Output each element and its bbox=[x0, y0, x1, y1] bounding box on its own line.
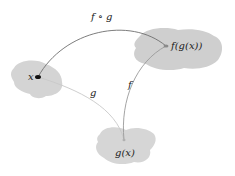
point-gx bbox=[123, 139, 126, 141]
label-gx: g(x) bbox=[115, 148, 135, 158]
set-blob-gx bbox=[96, 127, 156, 164]
point-fgx bbox=[164, 45, 169, 48]
set-blob-x bbox=[11, 61, 62, 99]
edge-label-f: f bbox=[128, 80, 132, 90]
edge-label-g: g bbox=[90, 88, 96, 98]
edge-label-f-compose-g: f ∘ g bbox=[91, 12, 112, 22]
label-x: x bbox=[28, 72, 34, 82]
label-fgx: f(g(x)) bbox=[171, 41, 202, 51]
point-x bbox=[35, 75, 41, 79]
composition-diagram: x f(g(x)) g(x) f ∘ g g f bbox=[0, 0, 235, 176]
